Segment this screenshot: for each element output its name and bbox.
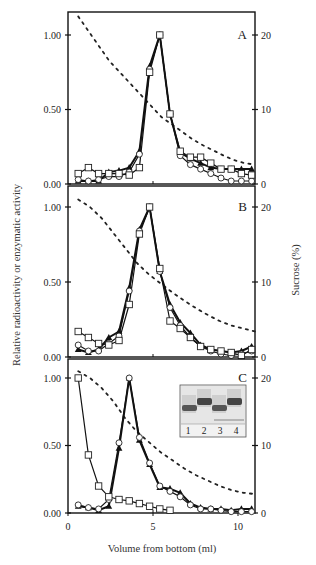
marker-circle — [96, 348, 102, 354]
marker-square — [106, 342, 112, 348]
marker-circle — [126, 288, 132, 294]
left-y-tick-label: 1.00 — [44, 30, 62, 41]
marker-circle — [85, 348, 91, 354]
marker-square — [157, 265, 163, 271]
x-tick-label: 5 — [151, 521, 156, 532]
gel-band-lane-3 — [212, 405, 227, 411]
marker-circle — [238, 178, 244, 184]
marker-circle — [249, 178, 255, 184]
marker-circle — [85, 178, 91, 184]
marker-circle — [126, 375, 132, 381]
series-line-circle-open — [78, 207, 251, 356]
right-y-tick-label: 20 — [261, 30, 271, 41]
right-y-tick-label: 20 — [261, 202, 271, 213]
marker-square — [218, 348, 224, 354]
right-y-tick-label: 10 — [261, 104, 271, 115]
gel-lane-label: 4 — [234, 426, 239, 436]
left-y-tick-label: 0.50 — [44, 104, 62, 115]
marker-square — [157, 506, 163, 512]
marker-square — [116, 496, 122, 502]
marker-square — [157, 32, 163, 38]
marker-circle — [75, 502, 81, 508]
marker-circle — [96, 506, 102, 512]
marker-square — [85, 164, 91, 170]
marker-circle — [187, 162, 193, 168]
right-y-tick-label: 10 — [261, 440, 271, 451]
panel-letter: C — [238, 370, 247, 385]
x-axis-title: Volume from bottom (ml) — [108, 543, 217, 555]
marker-circle — [228, 509, 234, 515]
left-y-tick-label: 0.00 — [44, 179, 62, 190]
panel-letter: A — [238, 27, 248, 42]
marker-square — [95, 340, 101, 346]
gel-lane-label: 3 — [218, 426, 223, 436]
left-y-tick-label: 0.00 — [44, 352, 62, 363]
x-tick-label: 0 — [66, 521, 71, 532]
marker-circle — [147, 460, 153, 466]
marker-square — [85, 452, 91, 458]
marker-circle — [136, 151, 142, 157]
right-y-tick-label: 0 — [261, 179, 266, 190]
marker-circle — [177, 494, 183, 500]
gel-band-lane-4 — [227, 398, 242, 405]
series-line-triangle-filled — [78, 35, 251, 181]
right-y-tick-label: 0 — [261, 508, 266, 519]
left-y-tick-label: 0.50 — [44, 440, 62, 451]
marker-circle — [187, 502, 193, 508]
marker-circle — [249, 509, 255, 515]
marker-circle — [75, 342, 81, 348]
marker-square — [177, 325, 183, 331]
marker-circle — [167, 488, 173, 494]
marker-square — [146, 204, 152, 210]
marker-square — [177, 148, 183, 154]
right-y-tick-label: 20 — [261, 373, 271, 384]
marker-triangle — [105, 503, 112, 509]
marker-square — [126, 498, 132, 504]
marker-circle — [208, 506, 214, 512]
gel-inset: 1 2 3 4 — [180, 385, 246, 437]
gel-lane-label: 1 — [186, 426, 191, 436]
marker-square — [167, 507, 173, 513]
marker-square — [116, 170, 122, 176]
panel-c: 0.000.501.0001020C — [44, 359, 272, 519]
marker-square — [218, 166, 224, 172]
marker-square — [75, 170, 81, 176]
series-line-circle-open — [78, 35, 251, 181]
marker-square — [238, 170, 244, 176]
marker-square — [106, 170, 112, 176]
gel-band-lane-2 — [197, 398, 212, 405]
marker-circle — [136, 434, 142, 440]
left-y-tick-label: 0.00 — [44, 508, 62, 519]
marker-square — [146, 503, 152, 509]
panel-a: 0.000.501.0001020A — [44, 12, 272, 190]
marker-square — [126, 172, 132, 178]
marker-square — [167, 111, 173, 117]
x-tick-label: 10 — [233, 521, 243, 532]
series-line-square-open — [78, 207, 251, 356]
left-y-tick-label: 0.50 — [44, 277, 62, 288]
series-line-triangle-filled — [78, 207, 251, 353]
marker-square — [228, 349, 234, 355]
marker-circle — [238, 509, 244, 515]
marker-square — [197, 154, 203, 160]
marker-square — [208, 346, 214, 352]
marker-square — [85, 334, 91, 340]
marker-square — [248, 346, 254, 352]
marker-square — [248, 172, 254, 178]
marker-square — [75, 375, 81, 381]
marker-square — [228, 166, 234, 172]
marker-circle — [85, 505, 91, 511]
marker-square — [126, 301, 132, 307]
marker-square — [95, 483, 101, 489]
left-y-tick-label: 1.00 — [44, 373, 62, 384]
right-y-tick-label: 0 — [261, 352, 266, 363]
marker-square — [187, 154, 193, 160]
marker-square — [136, 164, 142, 170]
marker-square — [167, 318, 173, 324]
marker-square — [187, 334, 193, 340]
right-y-axis-title: Sucrose (%) — [290, 244, 302, 296]
sucrose-curve — [78, 200, 255, 332]
left-y-tick-label: 1.00 — [44, 202, 62, 213]
marker-circle — [218, 507, 224, 513]
marker-circle — [75, 177, 81, 183]
